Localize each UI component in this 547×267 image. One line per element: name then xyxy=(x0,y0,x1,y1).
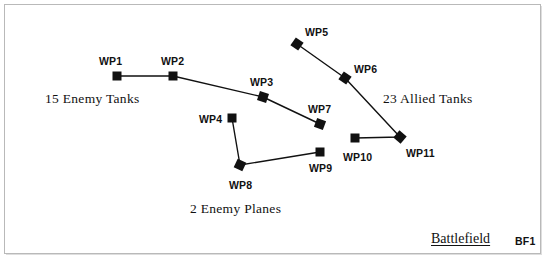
waypoint-label-wp4: WP4 xyxy=(199,114,222,125)
waypoint-label-wp1: WP1 xyxy=(99,56,122,67)
force-annotation-2: 23 Allied Tanks xyxy=(383,92,473,106)
force-annotation-1: 2 Enemy Planes xyxy=(190,202,281,216)
force-annotation-0: 15 Enemy Tanks xyxy=(45,92,140,106)
waypoint-label-wp9: WP9 xyxy=(309,163,332,174)
battlefield-diagram xyxy=(0,0,547,267)
waypoint-marker-wp1[interactable] xyxy=(113,72,122,81)
waypoint-label-wp11: WP11 xyxy=(406,148,435,159)
waypoint-label-wp5: WP5 xyxy=(305,27,328,38)
waypoint-label-wp3: WP3 xyxy=(250,77,273,88)
route-path xyxy=(232,118,320,165)
battlefield-screenshot: WP1WP2WP3WP715 Enemy TanksWP4WP8WP92 Ene… xyxy=(0,0,547,267)
battlefield-title: Battlefield xyxy=(431,232,490,246)
waypoint-marker-wp8[interactable] xyxy=(234,159,247,172)
waypoint-label-wp6: WP6 xyxy=(354,64,377,75)
waypoint-marker-wp10[interactable] xyxy=(351,134,360,143)
battlefield-code: BF1 xyxy=(515,236,535,247)
waypoint-label-wp2: WP2 xyxy=(161,56,184,67)
waypoint-marker-wp2[interactable] xyxy=(169,72,178,81)
waypoint-marker-wp4[interactable] xyxy=(228,114,237,123)
waypoint-marker-wp7[interactable] xyxy=(314,118,326,130)
waypoint-label-wp7: WP7 xyxy=(308,104,331,115)
waypoint-marker-wp5[interactable] xyxy=(290,37,303,50)
waypoint-marker-wp9[interactable] xyxy=(316,148,325,157)
waypoint-label-wp10: WP10 xyxy=(343,152,372,163)
waypoint-marker-wp3[interactable] xyxy=(257,91,269,103)
waypoint-label-wp8: WP8 xyxy=(229,180,252,191)
